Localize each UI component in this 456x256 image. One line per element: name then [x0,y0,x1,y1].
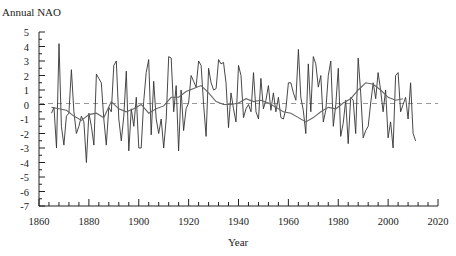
x-tick-label: 1940 [228,216,249,227]
x-tick-label: 1880 [78,216,99,227]
x-tick-label: 2020 [428,216,449,227]
x-tick-label: 1860 [29,216,50,227]
y-tick-label: -3 [20,143,29,154]
y-tick-label: 1 [24,85,29,96]
x-tick-label: 2000 [378,216,399,227]
y-tick-label: 0 [24,100,29,111]
y-tick-label: -5 [20,172,29,183]
y-tick-label: -2 [20,129,29,140]
y-tick-label: 4 [24,42,30,53]
y-tick-label: 3 [24,56,29,67]
y-tick-label: -1 [20,114,29,125]
x-tick-label: 1960 [278,216,299,227]
nao-line-chart: 543210-1-2-3-4-5-6-718601880190019201940… [0,0,456,256]
y-tick-label: 5 [24,27,29,38]
x-tick-label: 1980 [328,216,349,227]
x-tick-label: 1920 [178,216,199,227]
x-tick-label: 1900 [128,216,149,227]
y-tick-label: 2 [24,71,29,82]
y-tick-label: -6 [20,187,29,198]
y-tick-label: -4 [20,158,29,169]
y-tick-label: -7 [20,201,29,212]
